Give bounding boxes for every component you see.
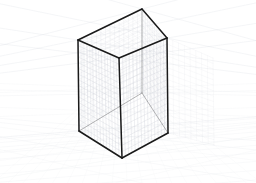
box-edge	[78, 40, 79, 131]
box-edge	[167, 38, 168, 133]
perspective-scene-svg	[0, 0, 256, 183]
perspective-drawing-canvas	[0, 0, 256, 183]
